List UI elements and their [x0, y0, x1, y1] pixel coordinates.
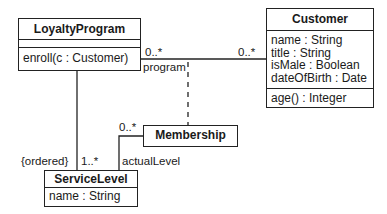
class-name: LoyaltyProgram [19, 19, 140, 40]
class-loyalty-program[interactable]: LoyaltyProgram enroll(c : Customer) [18, 18, 141, 71]
attribute: name : String [271, 34, 373, 47]
attributes-section: name : String [45, 188, 137, 206]
class-name: Customer [267, 9, 373, 31]
class-service-level[interactable]: ServiceLevel name : String [44, 170, 138, 207]
multiplicity-program-end: 0..* [145, 46, 162, 58]
operation: age() : Integer [271, 91, 346, 105]
multiplicity-customer-end: 0..* [238, 46, 255, 58]
constraint-ordered: {ordered} [21, 155, 68, 167]
attribute: dateOfBirth : Date [271, 72, 373, 85]
operations-section: age() : Integer [267, 88, 373, 107]
class-membership[interactable]: Membership [143, 125, 238, 147]
operations-section: enroll(c : Customer) [19, 47, 140, 69]
operation: enroll(c : Customer) [23, 51, 128, 65]
uml-class-diagram: LoyaltyProgram enroll(c : Customer) Cust… [0, 0, 387, 214]
attributes-section: name : String title : String isMale : Bo… [267, 31, 373, 88]
class-name: Membership [144, 126, 237, 146]
attribute: isMale : Boolean [271, 59, 373, 72]
class-name: ServiceLevel [45, 171, 137, 188]
attribute: name : String [49, 189, 120, 203]
role-program: program [143, 61, 186, 73]
multiplicity-service-level-end: 1..* [81, 155, 98, 167]
multiplicity-membership-end: 0..* [119, 121, 136, 133]
role-actual-level: actualLevel [122, 155, 180, 167]
attributes-section [19, 40, 140, 47]
class-customer[interactable]: Customer name : String title : String is… [266, 8, 374, 108]
